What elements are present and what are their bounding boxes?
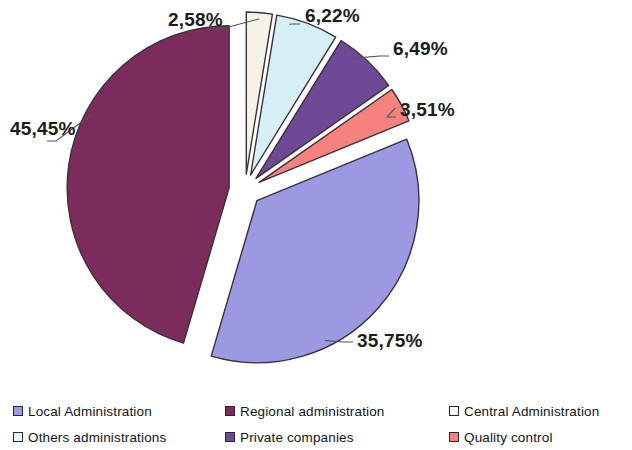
legend-swatch-icon bbox=[449, 406, 459, 416]
chart-legend: Local Administration Regional administra… bbox=[0, 398, 632, 450]
legend-item-label: Central Administration bbox=[464, 404, 599, 419]
pie-slices-group bbox=[67, 12, 419, 363]
pie-label-others-administrations: 6,22% bbox=[305, 5, 360, 27]
legend-item-others-administrations[interactable]: Others administrations bbox=[0, 424, 212, 450]
legend-swatch-icon bbox=[13, 406, 23, 416]
legend-item-regional-administration[interactable]: Regional administration bbox=[212, 398, 436, 424]
legend-item-local-administration[interactable]: Local Administration bbox=[0, 398, 212, 424]
pie-chart-plot-area: 2,58% 6,22% 6,49% 3,51% 35,75% 45,45% bbox=[0, 0, 632, 392]
legend-item-label: Others administrations bbox=[28, 430, 166, 445]
pie-label-local-administration: 35,75% bbox=[357, 330, 423, 352]
legend-swatch-icon bbox=[225, 406, 235, 416]
pie-chart-svg bbox=[0, 0, 632, 392]
pie-label-central-administration: 2,58% bbox=[168, 9, 223, 31]
pie-slice-regional-administration[interactable] bbox=[67, 26, 229, 343]
legend-swatch-icon bbox=[225, 432, 235, 442]
pie-label-regional-administration: 45,45% bbox=[10, 118, 76, 140]
pie-label-quality-control: 3,51% bbox=[400, 99, 455, 121]
legend-item-private-companies[interactable]: Private companies bbox=[212, 424, 436, 450]
legend-swatch-icon bbox=[449, 432, 459, 442]
legend-item-label: Regional administration bbox=[240, 404, 385, 419]
pie-label-private-companies: 6,49% bbox=[393, 38, 448, 60]
legend-item-label: Quality control bbox=[464, 430, 553, 445]
legend-item-central-administration[interactable]: Central Administration bbox=[436, 398, 632, 424]
pie-chart-figure: 2,58% 6,22% 6,49% 3,51% 35,75% 45,45% Lo… bbox=[0, 0, 632, 450]
legend-item-quality-control[interactable]: Quality control bbox=[436, 424, 632, 450]
legend-item-label: Local Administration bbox=[28, 404, 152, 419]
legend-item-label: Private companies bbox=[240, 430, 354, 445]
legend-swatch-icon bbox=[13, 432, 23, 442]
